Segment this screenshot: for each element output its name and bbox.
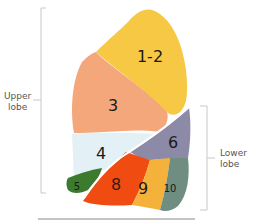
segment-label-10: 10: [164, 183, 177, 194]
upper-lobe-label-line1: Upper: [4, 91, 31, 102]
segment-label-5: 5: [74, 181, 80, 192]
lower-lobe-bracket: [200, 106, 215, 210]
segment-label-9: 9: [138, 179, 148, 198]
lower-lobe-label-line1: Lower: [220, 148, 247, 159]
upper-lobe-label: Upper lobe: [4, 91, 31, 113]
segment-label-6: 6: [168, 133, 178, 152]
lung-segments-diagram: 1-2 3 4 5 6 8 9 10: [0, 0, 255, 222]
segment-label-8: 8: [111, 175, 121, 194]
segment-label-1-2: 1-2: [137, 47, 163, 66]
segment-label-4: 4: [96, 144, 106, 163]
segment-label-3: 3: [108, 96, 118, 115]
lower-lobe-label-line2: lobe: [220, 159, 247, 170]
upper-lobe-bracket: [33, 8, 46, 193]
upper-lobe-label-line2: lobe: [4, 102, 31, 113]
lower-lobe-label: Lower lobe: [220, 148, 247, 170]
